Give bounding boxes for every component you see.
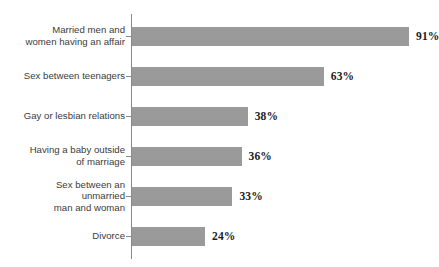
bar-value-label: 36% [249, 150, 272, 162]
axis-tick [126, 196, 131, 197]
category-label: Sex between an unmarried man and woman [0, 179, 125, 214]
bar[interactable] [132, 67, 324, 86]
chart-row: Divorce 24% [0, 216, 439, 256]
chart-row: Having a baby outside of marriage 36% [0, 136, 439, 176]
bar-value-label: 91% [416, 30, 439, 42]
chart-row: Sex between an unmarried man and woman 3… [0, 176, 439, 216]
chart-row: Married men and women having an affair 9… [0, 16, 439, 56]
bar[interactable] [132, 147, 242, 166]
axis-tick [126, 36, 131, 37]
bar-chart: Married men and women having an affair 9… [0, 0, 439, 267]
bar[interactable] [132, 187, 232, 206]
axis-tick [126, 116, 131, 117]
category-label: Gay or lesbian relations [0, 110, 125, 122]
bar-value-label: 33% [239, 190, 262, 202]
bar-value-label: 38% [255, 110, 278, 122]
bar-value-label: 63% [331, 70, 354, 82]
plot-area: Married men and women having an affair 9… [0, 0, 439, 267]
bar-value-label: 24% [212, 230, 235, 242]
axis-tick [126, 156, 131, 157]
category-label: Divorce [0, 230, 125, 242]
category-label: Having a baby outside of marriage [0, 144, 125, 167]
axis-tick [126, 76, 131, 77]
bar[interactable] [132, 227, 205, 246]
chart-row: Sex between teenagers 63% [0, 56, 439, 96]
category-label: Sex between teenagers [0, 70, 125, 82]
axis-tick [126, 236, 131, 237]
chart-row: Gay or lesbian relations 38% [0, 96, 439, 136]
category-label: Married men and women having an affair [0, 24, 125, 47]
bar[interactable] [132, 27, 409, 46]
bar[interactable] [132, 107, 248, 126]
